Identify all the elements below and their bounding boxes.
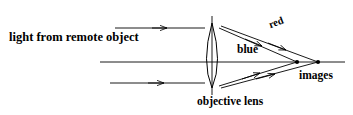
label-images: images: [299, 70, 333, 82]
focal-point-dot-icon-blue: [295, 60, 299, 64]
ray-diagram-canvas: [0, 0, 353, 115]
converging-ray-upper-red-arrow: [268, 43, 286, 50]
label-blue-ray: blue: [237, 44, 258, 56]
converging-ray-lower-red-arrow: [256, 74, 275, 79]
label-objective-lens: objective lens: [197, 96, 263, 108]
optics-ray-diagram: light from remote object objective lens …: [0, 0, 353, 115]
focal-point-dot-icon-red: [316, 60, 320, 64]
label-light-from-remote-object: light from remote object: [9, 31, 139, 44]
biconvex-lens-icon: [207, 16, 218, 95]
